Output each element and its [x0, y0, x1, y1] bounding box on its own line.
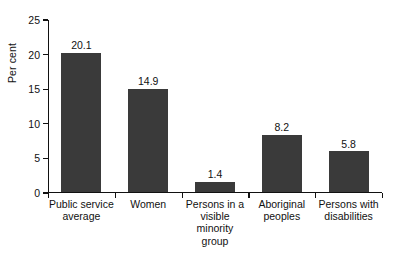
y-axis-tick: [43, 158, 48, 159]
x-axis-category-label: Aboriginalpeoples: [248, 198, 315, 222]
x-axis-line: [48, 192, 382, 193]
y-axis-tick-label: 0: [34, 188, 40, 199]
bar: [61, 53, 101, 192]
y-axis-tick: [43, 54, 48, 55]
category-label-line: peoples: [248, 210, 315, 222]
bar: [329, 151, 369, 191]
x-axis-category-label: Public serviceaverage: [48, 198, 115, 222]
category-label-line: Persons in a: [182, 198, 249, 210]
y-axis-tick-label: 25: [28, 15, 40, 26]
category-label-line: average: [48, 210, 115, 222]
y-axis-title: Per cent: [6, 0, 20, 83]
bar-chart: Per cent 0510152025 20.114.91.48.25.8 Pu…: [0, 0, 397, 255]
bar-value-label: 20.1: [71, 40, 91, 51]
category-label-line: Persons with: [315, 198, 382, 210]
x-axis-category-label: Women: [115, 198, 182, 210]
category-label-line: group: [182, 235, 249, 247]
bar-value-label: 8.2: [274, 122, 289, 133]
y-axis-tick: [43, 19, 48, 20]
bar-value-label: 14.9: [138, 76, 158, 87]
y-axis-tick-label: 15: [28, 84, 40, 95]
category-label-line: disabilities: [315, 210, 382, 222]
category-label-line: visible minority: [182, 210, 249, 234]
bar-value-label: 1.4: [208, 169, 223, 180]
bar: [195, 182, 235, 192]
bar: [262, 135, 302, 192]
y-axis-line: [48, 20, 49, 193]
category-label-line: Public service: [48, 198, 115, 210]
y-axis-tick-label: 5: [34, 153, 40, 164]
category-label-line: Aboriginal: [248, 198, 315, 210]
x-axis-category-label: Persons withdisabilities: [315, 198, 382, 222]
plot-area: 0510152025 20.114.91.48.25.8: [48, 20, 382, 193]
bar-value-label: 5.8: [341, 139, 356, 150]
x-axis-tick: [382, 193, 383, 198]
y-axis-tick: [43, 89, 48, 90]
y-axis-tick-label: 20: [28, 49, 40, 60]
y-axis-tick-label: 10: [28, 119, 40, 130]
x-axis-category-label: Persons in avisible minoritygroup: [182, 198, 249, 247]
bar: [128, 89, 168, 192]
y-axis-tick: [43, 123, 48, 124]
category-label-line: Women: [115, 198, 182, 210]
